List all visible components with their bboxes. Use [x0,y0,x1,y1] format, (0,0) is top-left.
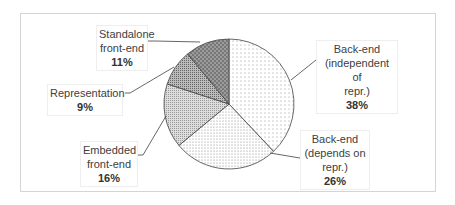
label-backend-independent: Back-end(independent ofrepr.)38% [316,40,398,114]
label-embedded-frontend: Embeddedfront-end16% [80,141,138,187]
label-representation: Representation9% [47,84,123,116]
chart-root: Back-end(independent ofrepr.)38% Back-en… [0,0,455,205]
label-standalone-frontend: Standalonefront-end11% [96,25,148,71]
label-backend-depends: Back-end(depends onrepr.)26% [300,130,370,190]
